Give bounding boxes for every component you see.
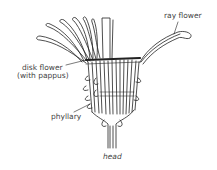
disk-flower-leader	[66, 60, 86, 65]
disk-flowers	[86, 58, 140, 114]
disk-flower-sublabel: (with pappus)	[17, 72, 69, 80]
phyllary-label: phyllary	[51, 113, 81, 121]
right-ray-flower	[140, 31, 191, 64]
flower-head-illustration	[0, 0, 217, 170]
left-ray-flowers	[37, 17, 113, 63]
diagram-caption: head	[103, 153, 122, 161]
ray-flower-label: ray flower	[164, 12, 202, 20]
stem	[92, 110, 134, 148]
